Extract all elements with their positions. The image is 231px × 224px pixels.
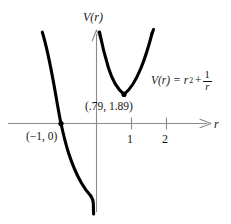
equation-fraction: 1r	[203, 70, 212, 92]
x-intercept-dot	[58, 121, 63, 126]
y-axis-label: V(r)	[83, 11, 103, 23]
minimum-point-label: (.79, 1.89)	[85, 101, 133, 113]
curve-left-branch	[42, 32, 91, 196]
x-tick-label-1: 1	[127, 133, 133, 145]
minimum-point-dot	[121, 92, 126, 97]
equation-left-hand-side: V(r) = r	[151, 75, 188, 87]
curve-right-upper-tail	[152, 30, 154, 34]
x-intercept-label: (−1, 0)	[26, 131, 57, 143]
curve-left-asymptote-tail	[91, 196, 94, 214]
equation-plus-sign: +	[195, 75, 202, 87]
x-axis-label: r	[214, 118, 219, 130]
equation-callout: V(r) = r2+1r	[151, 70, 212, 92]
equation-fraction-denominator: r	[203, 82, 211, 93]
equation-exponent: 2	[189, 77, 193, 85]
x-tick-label-2: 2	[162, 133, 168, 145]
curve-right-branch	[100, 32, 153, 94]
equation-fraction-numerator: 1	[203, 70, 212, 81]
